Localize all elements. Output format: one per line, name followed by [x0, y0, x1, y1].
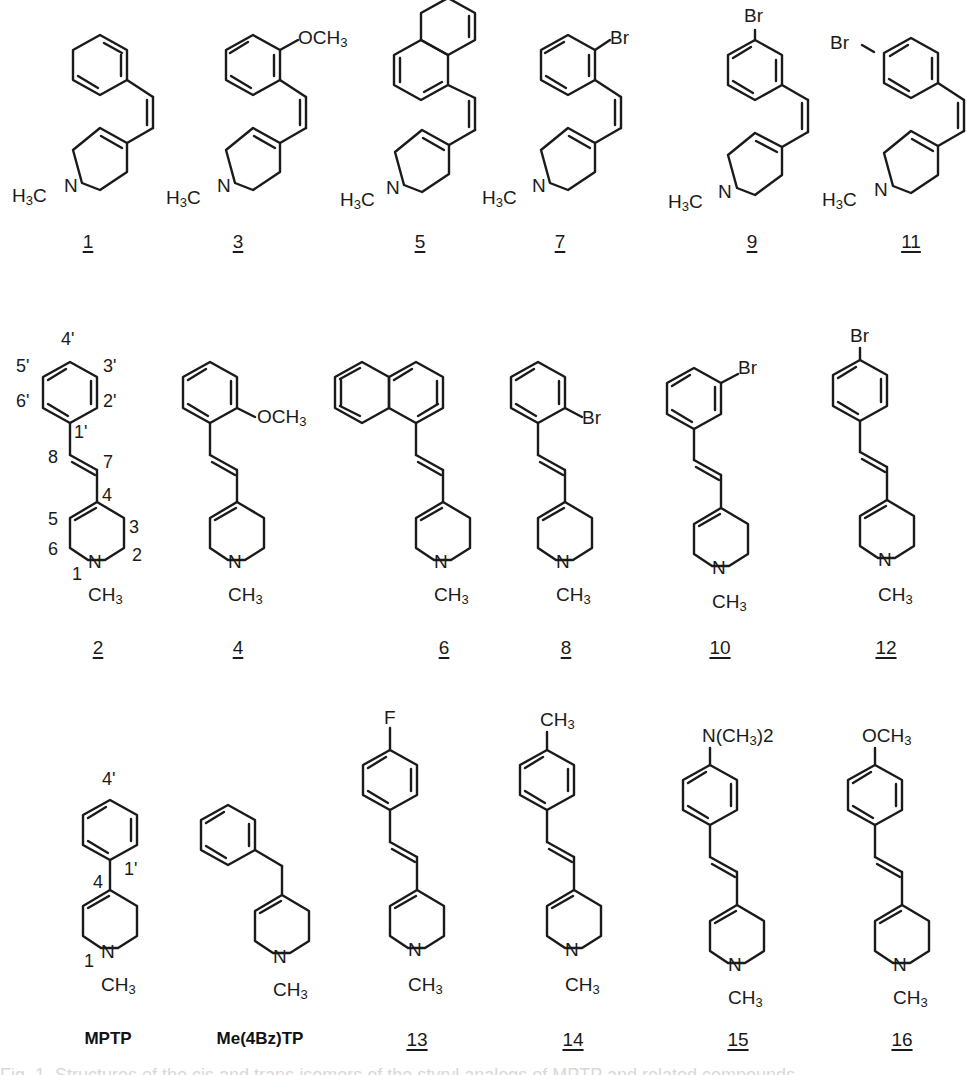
atom-number-3prime: 3' [103, 357, 116, 375]
methyl-label: H3C [482, 188, 517, 209]
methoxy-label: OCH3 [862, 726, 911, 747]
bromo-label: Br [738, 358, 757, 377]
methyl-label: H3C [166, 188, 201, 209]
atom-number-2prime: 2' [103, 392, 116, 410]
nitrogen-label: N [712, 558, 726, 577]
methyl-label: H3C [668, 192, 703, 213]
nitrogen-label: N [408, 940, 422, 959]
methyl-label: CH3 [434, 585, 469, 606]
compound-5-structure [320, 0, 480, 290]
compound-number: 8 [561, 638, 572, 657]
compound-number: 15 [727, 1030, 748, 1049]
methyl-label: CH3 [101, 975, 136, 996]
compound-number: 5 [415, 232, 426, 251]
compound-14-structure [490, 690, 650, 1050]
methyl-label: CH3 [712, 592, 747, 613]
methyl-label: H3C [340, 190, 375, 211]
compound-8-structure [500, 320, 650, 680]
nitrogen-label: N [273, 947, 287, 966]
compound-10-structure [650, 320, 810, 680]
fluoro-label: F [384, 708, 396, 727]
compound-13: F N CH3 13 [330, 690, 490, 1050]
methyl-label: CH3 [728, 988, 763, 1009]
compound-number: 9 [747, 232, 758, 251]
nitrogen-label: N [217, 176, 231, 195]
nitrogen-label: N [565, 940, 579, 959]
bromo-label: Br [850, 326, 869, 345]
atom-number-1prime: 1' [74, 423, 87, 441]
methyl-label: CH3 [88, 585, 123, 606]
compound-4: OCH3 N CH3 4 [160, 320, 320, 680]
compound-13-structure [330, 690, 490, 1050]
nitrogen-label: N [434, 552, 448, 571]
nitrogen-label: N [878, 550, 892, 569]
dimethylamino-label: N(CH3)2 [702, 726, 774, 747]
compound-6: N CH3 6 [320, 320, 490, 680]
atom-number-7: 7 [103, 453, 113, 471]
compound-1-structure [0, 0, 160, 290]
compound-16: OCH3 N CH3 16 [810, 690, 972, 1050]
nitrogen-label: N [728, 955, 742, 974]
methyl-label: CH3 [273, 980, 308, 1001]
methyl-label: CH3 [878, 585, 913, 606]
atom-number-4: 4 [93, 873, 103, 891]
atom-number-5prime: 5' [16, 357, 29, 375]
compound-3: OCH3 N H3C 3 [160, 0, 320, 290]
methoxy-label: OCH3 [257, 407, 306, 428]
atom-number-3: 3 [129, 518, 139, 536]
compound-number: 2 [93, 638, 104, 657]
bromo-label: Br [582, 408, 601, 427]
compound-14: CH3 N CH3 14 [490, 690, 650, 1050]
atom-number-2: 2 [132, 546, 142, 564]
compound-8: Br N CH3 8 [500, 320, 650, 680]
nitrogen-label: N [532, 176, 546, 195]
compound-number: 10 [709, 638, 730, 657]
atom-number-8: 8 [48, 448, 58, 466]
compound-number: 6 [439, 638, 450, 657]
bromo-label: Br [830, 33, 849, 52]
bromo-label: Br [744, 6, 763, 25]
atom-number-4: 4 [102, 486, 112, 504]
methyl-label: CH3 [556, 585, 591, 606]
methyl-label: CH3 [408, 975, 443, 996]
nitrogen-label: N [101, 942, 115, 961]
compound-number: 16 [891, 1030, 912, 1049]
mptp-structure [0, 690, 175, 1050]
compound-name: MPTP [84, 1030, 131, 1047]
nitrogen-label: N [893, 955, 907, 974]
nitrogen-label: N [88, 552, 102, 571]
compound-number: 7 [555, 232, 566, 251]
compound-number: 1 [83, 232, 94, 251]
atom-number-6: 6 [48, 540, 58, 558]
atom-number-5: 5 [48, 510, 58, 528]
compound-1: N H3C 1 [0, 0, 160, 290]
compound-5: N H3C 5 [320, 0, 480, 290]
compound-9: Br N H3C 9 [640, 0, 800, 290]
methyl-label: H3C [12, 186, 47, 207]
compound-6-structure [320, 320, 490, 680]
compound-7: Br N H3C 7 [480, 0, 640, 290]
compound-number: 14 [562, 1030, 583, 1049]
compound-number: 3 [233, 232, 244, 251]
methyl-label: H3C [822, 190, 857, 211]
nitrogen-label: N [874, 180, 888, 199]
methyl-label: CH3 [893, 988, 928, 1009]
compound-15: N(CH3)2 N CH3 15 [650, 690, 810, 1050]
nitrogen-label: N [386, 178, 400, 197]
methyl-substituent-label: CH3 [540, 710, 575, 731]
methyl-label: CH3 [565, 975, 600, 996]
compound-2: 4' 5' 3' 6' 2' 1' 8 7 4 5 3 6 2 1 N CH3 … [0, 320, 160, 680]
nitrogen-label: N [718, 182, 732, 201]
compound-me4bztp: N CH3 Me(4Bz)TP [175, 690, 330, 1050]
atom-number-1: 1 [84, 952, 94, 970]
compound-4-structure [160, 320, 320, 680]
compound-mptp: 4' 1' 4 1 N CH3 MPTP [0, 690, 175, 1050]
nitrogen-label: N [64, 176, 78, 195]
compound-12-structure [810, 320, 972, 680]
figure-caption: Fig. 1. Structures of the cis and trans … [0, 1066, 972, 1075]
compound-name: Me(4Bz)TP [217, 1030, 304, 1047]
compound-11: Br N H3C 11 [800, 0, 972, 290]
compound-number: 13 [406, 1030, 427, 1049]
nitrogen-label: N [556, 552, 570, 571]
bromo-label: Br [610, 28, 629, 47]
